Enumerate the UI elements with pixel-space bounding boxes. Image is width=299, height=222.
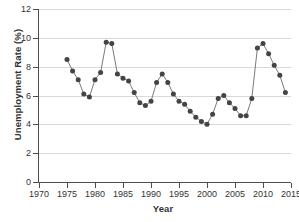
- unemployment-rate-chart: Unemployment Rate (%) Year 024681012 197…: [0, 0, 299, 222]
- data-point: [261, 41, 266, 46]
- y-tick-label: 12: [7, 5, 31, 14]
- data-point: [216, 96, 221, 101]
- data-point: [87, 94, 92, 99]
- data-point: [272, 63, 277, 68]
- data-point: [109, 41, 114, 46]
- y-tick-mark: [33, 124, 38, 125]
- data-point: [76, 77, 81, 82]
- series-markers: [65, 40, 288, 127]
- y-tick-label: 6: [7, 92, 31, 101]
- x-tick-mark: [179, 183, 180, 188]
- data-point: [121, 76, 126, 81]
- data-point: [221, 93, 226, 98]
- data-point: [104, 40, 109, 45]
- x-axis-line: [38, 182, 291, 183]
- data-point: [81, 92, 86, 97]
- unemployment-series: [39, 9, 291, 182]
- data-point: [255, 45, 260, 50]
- data-point: [199, 119, 204, 124]
- data-point: [137, 100, 142, 105]
- data-point: [171, 92, 176, 97]
- data-point: [205, 122, 210, 127]
- data-point: [182, 102, 187, 107]
- x-tick-mark: [263, 183, 264, 188]
- y-tick-mark: [33, 153, 38, 154]
- y-tick-mark: [33, 38, 38, 39]
- y-tick-mark: [33, 9, 38, 10]
- data-point: [160, 71, 165, 76]
- data-point: [70, 68, 75, 73]
- y-tick-mark: [33, 67, 38, 68]
- x-tick-mark: [291, 183, 292, 188]
- x-tick-mark: [67, 183, 68, 188]
- data-point: [188, 109, 193, 114]
- data-point: [227, 100, 232, 105]
- data-point: [65, 57, 70, 62]
- data-point: [143, 103, 148, 108]
- data-point: [277, 73, 282, 78]
- data-point: [93, 77, 98, 82]
- y-tick-label: 8: [7, 63, 31, 72]
- y-axis-title: Unemployment Rate (%): [12, 5, 23, 165]
- x-tick-mark: [39, 183, 40, 188]
- x-tick-mark: [235, 183, 236, 188]
- data-point: [177, 99, 182, 104]
- x-tick-mark: [95, 183, 96, 188]
- series-line: [67, 42, 285, 124]
- data-point: [266, 51, 271, 56]
- data-point: [154, 80, 159, 85]
- x-axis-title: Year: [34, 203, 292, 214]
- y-tick-label: 2: [7, 149, 31, 158]
- data-point: [283, 90, 288, 95]
- x-tick-label: 2015: [271, 190, 299, 199]
- data-point: [233, 106, 238, 111]
- data-point: [193, 115, 198, 120]
- data-point: [249, 96, 254, 101]
- data-point: [165, 80, 170, 85]
- data-point: [210, 112, 215, 117]
- y-tick-label: 0: [7, 178, 31, 187]
- data-point: [238, 113, 243, 118]
- data-point: [244, 113, 249, 118]
- x-tick-mark: [123, 183, 124, 188]
- y-tick-mark: [33, 96, 38, 97]
- x-tick-mark: [151, 183, 152, 188]
- data-point: [115, 71, 120, 76]
- data-point: [132, 90, 137, 95]
- y-tick-mark: [33, 182, 38, 183]
- data-point: [98, 70, 103, 75]
- plot-area: [39, 9, 291, 182]
- x-tick-mark: [207, 183, 208, 188]
- y-tick-label: 10: [7, 34, 31, 43]
- data-point: [149, 99, 154, 104]
- y-tick-label: 4: [7, 120, 31, 129]
- data-point: [126, 79, 131, 84]
